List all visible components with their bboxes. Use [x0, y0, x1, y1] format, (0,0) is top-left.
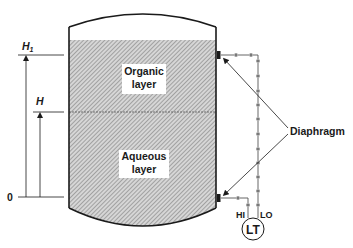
capillary-lines: [221, 55, 258, 218]
interface-level-diagram: Organic layer Aqueous layer H1 H 0: [0, 0, 353, 248]
organic-label-line1: Organic: [124, 65, 164, 77]
level-dimensions: [18, 55, 64, 197]
lo-capillary: [221, 55, 258, 218]
aqueous-label-line2: layer: [132, 163, 157, 175]
diaphragm-seals: [217, 51, 221, 202]
top-diaphragm-icon: [217, 51, 221, 59]
diaphragm-callout-leaders: [225, 60, 288, 194]
h-label: H: [36, 95, 44, 107]
zero-label: 0: [7, 191, 13, 203]
transmitter-label: LT: [246, 223, 260, 237]
level-transmitter: LT HI LO: [236, 210, 273, 240]
hi-port-label: HI: [236, 210, 245, 220]
diaphragm-label: Diaphragm: [290, 125, 345, 137]
organic-layer-label: Organic layer: [122, 64, 166, 94]
organic-label-line2: layer: [132, 78, 157, 90]
tank-top-head: [69, 14, 216, 27]
lo-port-label: LO: [260, 210, 273, 220]
h1-label: H1: [22, 40, 34, 53]
capillary-markers: [235, 53, 260, 206]
aqueous-label-line1: Aqueous: [122, 150, 167, 162]
aqueous-layer-label: Aqueous layer: [119, 150, 169, 178]
bottom-diaphragm-icon: [217, 194, 221, 202]
